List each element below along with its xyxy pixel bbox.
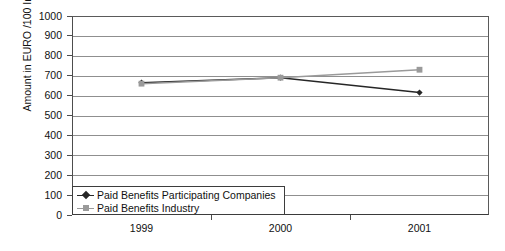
y-tick-label: 1000 [18,11,62,21]
y-tick-label: 100 [18,190,62,200]
gridline [73,155,488,156]
legend-item-participating: Paid Benefits Participating Companies [77,189,281,201]
legend-marker-square-icon [77,203,94,214]
gridline [73,56,488,57]
y-tick-label: 0 [18,210,62,220]
legend-label-industry: Paid Benefits Industry [97,203,199,214]
x-tick-mark [211,215,212,220]
gridline [73,135,488,136]
gridline [73,96,488,97]
gridline [73,76,488,77]
x-tick-label: 1999 [82,222,202,234]
y-tick-label: 200 [18,170,62,180]
y-tick-label: 600 [18,90,62,100]
line-chart: Amount in EURO /100 Insurance Years 1000… [0,0,505,251]
x-tick-label: 2000 [221,222,341,234]
y-tick-label: 500 [18,110,62,120]
y-tick-label: 700 [18,70,62,80]
y-tick-label: 300 [18,150,62,160]
y-tick-label: 400 [18,130,62,140]
legend: Paid Benefits Participating Companies Pa… [72,186,285,215]
legend-item-industry: Paid Benefits Industry [77,202,281,214]
y-axis-title-container: Amount in EURO /100 Insurance Years [2,5,16,220]
gridline [73,36,488,37]
legend-label-participating: Paid Benefits Participating Companies [97,190,276,201]
x-tick-mark [350,215,351,220]
gridline [73,175,488,176]
gridline [73,116,488,117]
legend-marker-diamond-icon [77,190,94,201]
x-tick-label: 2001 [360,222,480,234]
y-tick-label: 800 [18,50,62,60]
y-tick-label: 900 [18,30,62,40]
